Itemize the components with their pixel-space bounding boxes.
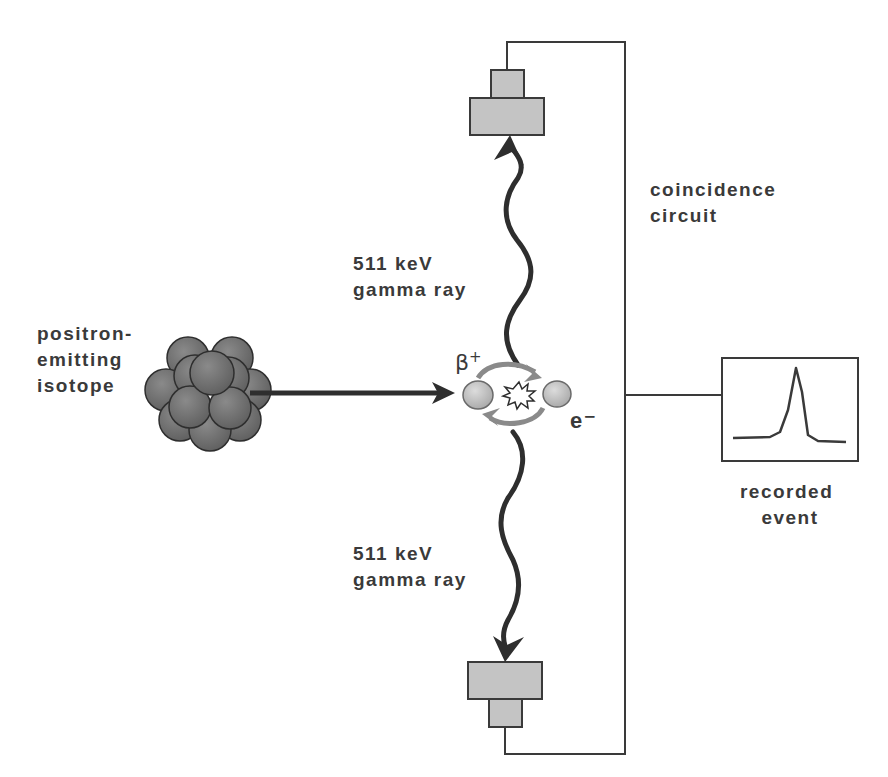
detector-bottom bbox=[468, 662, 542, 727]
electron-particle bbox=[543, 381, 571, 407]
recorded-event-display bbox=[722, 358, 858, 461]
positron-particle bbox=[463, 381, 493, 409]
gamma-ray-top bbox=[494, 135, 531, 365]
gamma-ray-top-label: 511 keV gamma ray bbox=[353, 253, 467, 300]
electron-symbol: e⁻ bbox=[570, 408, 597, 433]
positron-emission-arrow bbox=[250, 382, 455, 404]
annihilation-burst-icon bbox=[503, 382, 535, 409]
gamma-ray-bottom-label: 511 keV gamma ray bbox=[353, 543, 467, 590]
pet-diagram: positron- emitting isotope 511 keV gamma… bbox=[0, 0, 888, 777]
coincidence-circuit-wire bbox=[505, 42, 722, 754]
isotope-label: positron- emitting isotope bbox=[37, 323, 140, 396]
coincidence-circuit-label: coincidence circuit bbox=[650, 179, 783, 226]
recorded-event-label: recorded event bbox=[740, 481, 840, 528]
positron-symbol: β+ bbox=[455, 348, 482, 375]
detector-top bbox=[470, 70, 544, 135]
gamma-ray-bottom bbox=[493, 432, 524, 662]
